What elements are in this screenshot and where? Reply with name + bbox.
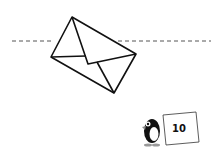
penguin-mascot xyxy=(142,119,160,147)
game-scene: 10 xyxy=(0,0,211,166)
envelope-icon xyxy=(51,17,136,93)
score-card: 10 xyxy=(163,112,199,145)
card-number: 10 xyxy=(172,123,186,134)
